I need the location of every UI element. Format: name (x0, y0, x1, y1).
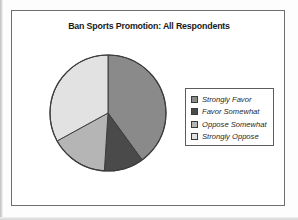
legend-swatch-icon-oppose-somewhat (191, 121, 198, 128)
scan-edge-left (0, 0, 3, 220)
legend-swatch-icon-strongly-oppose (191, 133, 198, 140)
pie-chart (46, 51, 170, 175)
figure-frame: Ban Sports Promotion: All Respondents St… (11, 10, 285, 206)
legend-swatch-icon-favor-somewhat (191, 108, 198, 115)
scan-edge-bottom (0, 217, 298, 220)
legend: Strongly Favor Favor Somewhat Oppose Som… (185, 88, 274, 146)
legend-label-strongly-oppose: Strongly Oppose (202, 132, 259, 141)
chart-title: Ban Sports Promotion: All Respondents (22, 20, 277, 31)
legend-item-strongly-favor[interactable]: Strongly Favor (191, 93, 273, 106)
legend-label-oppose-somewhat: Oppose Somewhat (202, 120, 267, 129)
legend-label-strongly-favor: Strongly Favor (202, 95, 251, 104)
legend-item-oppose-somewhat[interactable]: Oppose Somewhat (191, 118, 273, 131)
legend-swatch-icon-strongly-favor (191, 96, 198, 103)
legend-item-favor-somewhat[interactable]: Favor Somewhat (191, 106, 273, 119)
scanned-page: Ban Sports Promotion: All Respondents St… (0, 0, 298, 220)
legend-item-strongly-oppose[interactable]: Strongly Oppose (191, 131, 273, 144)
legend-label-favor-somewhat: Favor Somewhat (202, 107, 259, 116)
pie-chart-svg (46, 51, 170, 175)
